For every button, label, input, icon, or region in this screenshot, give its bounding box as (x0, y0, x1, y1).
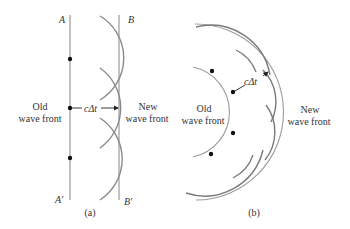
huygens-wavefront-diagram: cΔt A B A′ B′ Old wave front New wave fr… (0, 0, 350, 229)
wavelet-arc (100, 16, 124, 100)
source-point (209, 152, 213, 156)
caption-b: (b) (248, 207, 260, 219)
source-point (68, 106, 72, 110)
source-point (231, 131, 235, 135)
panel-a: cΔt A B A′ B′ Old wave front New wave fr… (18, 14, 168, 219)
label-A: A (58, 14, 66, 25)
wavelet-arc (186, 150, 263, 196)
distance-label: cΔt (84, 103, 97, 114)
old-front-label: wave front (181, 115, 224, 126)
distance-label: cΔt (244, 76, 257, 87)
new-front-label: wave front (125, 113, 168, 124)
caption-a: (a) (84, 207, 95, 219)
new-front-label: New (139, 101, 159, 112)
old-front-label: Old (33, 101, 48, 112)
source-point (68, 156, 72, 160)
old-front-label: wave front (18, 113, 61, 124)
old-front-label: Old (197, 103, 212, 114)
source-point (210, 69, 214, 73)
wavelet-arc (236, 50, 256, 72)
wavelet-arc (263, 70, 276, 122)
panel-b: cΔt Old wave front New wave front (b) (181, 24, 330, 219)
label-B-prime: B′ (124, 196, 133, 207)
source-point (68, 57, 72, 61)
new-front-label: New (301, 104, 321, 115)
label-A-prime: A′ (54, 194, 64, 205)
new-front-label: wave front (287, 116, 330, 127)
label-B: B (128, 14, 134, 25)
source-point (231, 90, 235, 94)
wavelet-arc (265, 105, 275, 160)
